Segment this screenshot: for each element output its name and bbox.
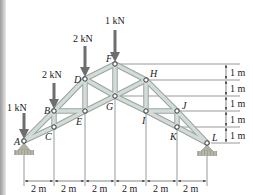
load-label-F: 1 kN (105, 15, 125, 26)
svg-text:1 m: 1 m (230, 114, 246, 125)
svg-text:2 m: 2 m (31, 183, 47, 194)
load-label-B: 2 kN (42, 69, 62, 80)
svg-text:2 m: 2 m (92, 183, 108, 194)
load-label-A: 1 kN (7, 102, 27, 113)
svg-text:2 m: 2 m (183, 183, 199, 194)
node-label-A: A (13, 136, 21, 147)
node-label-G: G (106, 101, 113, 112)
node-label-L: L (211, 132, 218, 143)
svg-text:1 m: 1 m (230, 98, 246, 109)
svg-text:1 m: 1 m (230, 130, 246, 141)
svg-text:2 m: 2 m (122, 183, 138, 194)
node-label-H: H (149, 68, 158, 79)
svg-text:2 m: 2 m (61, 183, 77, 194)
truss-diagram: 1 kN 2 kN 2 kN 1 kN A B C D E F G H I J … (0, 0, 253, 195)
load-arrow-D: 2 kN (73, 33, 93, 77)
node-label-B: B (44, 105, 50, 116)
node-label-D: D (73, 74, 82, 85)
load-arrow-A: 1 kN (7, 102, 29, 139)
node-label-C: C (45, 131, 52, 142)
node-label-F: F (105, 53, 113, 64)
load-label-D: 2 kN (73, 33, 93, 44)
svg-text:1 m: 1 m (230, 67, 246, 78)
node-label-E: E (75, 116, 82, 127)
node-label-K: K (169, 131, 178, 142)
support-roller-L (197, 145, 217, 156)
vertical-dimension-labels: 1 m 1 m 1 m 1 m 1 m (230, 67, 246, 141)
svg-text:1 m: 1 m (230, 83, 246, 94)
svg-text:2 m: 2 m (153, 183, 169, 194)
node-label-J: J (182, 100, 187, 111)
node-label-I: I (141, 115, 146, 126)
